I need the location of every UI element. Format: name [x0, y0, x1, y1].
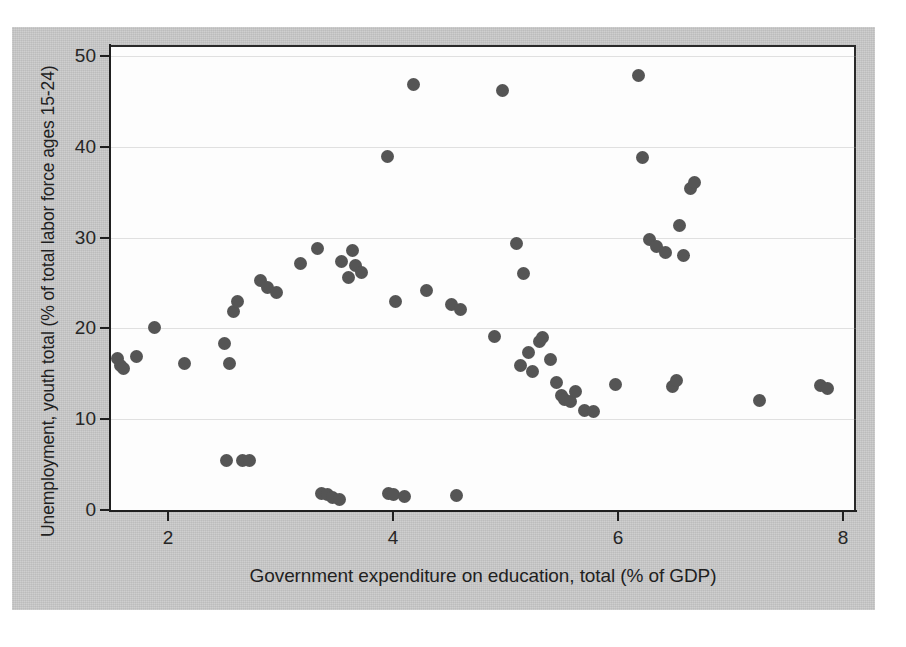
y-tick-mark [100, 327, 109, 329]
data-point [223, 357, 236, 370]
data-point [117, 362, 130, 375]
x-tick-mark [617, 512, 619, 521]
data-point [178, 357, 191, 370]
data-point [526, 365, 539, 378]
x-tick-mark [392, 512, 394, 521]
y-tick-label: 50 [56, 46, 96, 65]
x-tick-label: 2 [148, 528, 188, 547]
y-tick-mark [100, 146, 109, 148]
y-tick-mark [100, 237, 109, 239]
y-tick-mark [100, 509, 109, 511]
x-tick-label: 6 [598, 528, 638, 547]
data-point [454, 303, 467, 316]
data-point [636, 151, 649, 164]
data-point [517, 267, 530, 280]
data-point [510, 237, 523, 250]
data-point [688, 176, 701, 189]
y-tick-label: 30 [56, 228, 96, 247]
gridline [110, 56, 856, 57]
data-point [821, 382, 834, 395]
y-tick-label: 10 [56, 409, 96, 428]
data-point [398, 490, 411, 503]
data-point [514, 359, 527, 372]
y-tick-label: 20 [56, 318, 96, 337]
data-point [609, 378, 622, 391]
data-point [496, 84, 509, 97]
panel-right-border [854, 45, 856, 511]
data-point [243, 454, 256, 467]
gridline [110, 328, 856, 329]
data-point [420, 284, 433, 297]
data-point [270, 286, 283, 299]
x-axis-label: Government expenditure on education, tot… [110, 565, 856, 587]
data-point [488, 330, 501, 343]
y-axis-line [109, 44, 111, 512]
data-point [587, 405, 600, 418]
y-tick-label: 0 [56, 500, 96, 519]
y-tick-mark [100, 418, 109, 420]
gridline [110, 238, 856, 239]
gridline [110, 147, 856, 148]
data-point [231, 295, 244, 308]
data-point [333, 493, 346, 506]
data-point [670, 374, 683, 387]
panel-top-border [110, 45, 856, 47]
data-point [659, 246, 672, 259]
data-point [753, 394, 766, 407]
x-tick-mark [167, 512, 169, 521]
y-tick-label: 40 [56, 137, 96, 156]
data-point [632, 69, 645, 82]
data-point [342, 271, 355, 284]
data-point [569, 385, 582, 398]
data-point [381, 150, 394, 163]
data-point [130, 350, 143, 363]
data-point [677, 249, 690, 262]
data-point [218, 337, 231, 350]
data-point [335, 255, 348, 268]
x-axis-line [109, 510, 857, 512]
plot-panel [110, 45, 856, 511]
x-tick-label: 4 [373, 528, 413, 547]
x-tick-label: 8 [823, 528, 863, 547]
x-tick-mark [842, 512, 844, 521]
data-point [355, 266, 368, 279]
y-axis-label: Unemployment, youth total (% of total la… [38, 65, 59, 537]
data-point [536, 331, 549, 344]
data-point [148, 321, 161, 334]
y-tick-mark [100, 55, 109, 57]
data-point [407, 78, 420, 91]
data-point [522, 346, 535, 359]
data-point [311, 242, 324, 255]
data-point [389, 295, 402, 308]
data-point [346, 244, 359, 257]
data-point [544, 353, 557, 366]
data-point [673, 219, 686, 232]
data-point [450, 489, 463, 502]
data-point [294, 257, 307, 270]
data-point [220, 454, 233, 467]
data-point [550, 376, 563, 389]
scatter-plot-screenshot: 01020304050 2468 Unemployment, youth tot… [0, 0, 906, 647]
gridline [110, 419, 856, 420]
